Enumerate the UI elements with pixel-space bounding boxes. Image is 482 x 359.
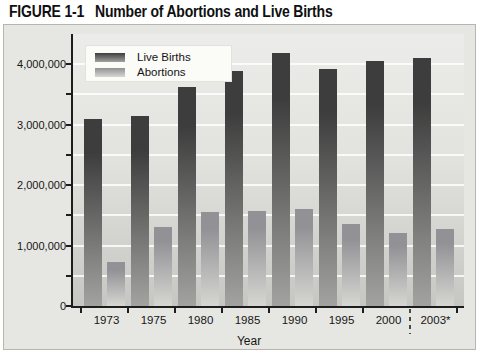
x-axis-tick [315,308,317,313]
x-axis-label: 1973 [84,314,130,326]
figure-page: FIGURE 1-1Number of Abortions and Live B… [0,0,482,359]
bar-live-births-2000 [366,61,384,306]
bar-abortions-1975 [154,227,172,306]
y-axis-tick [66,93,71,95]
y-axis-label: 3,000,000 [8,119,66,131]
figure-caption: Number of Abortions and Live Births [95,2,333,20]
x-axis-tick [268,308,270,313]
x-axis-label: 1980 [178,314,224,326]
bar-abortions-2000 [389,233,407,306]
legend-label-live-births: Live Births [137,51,191,64]
x-axis-label: 1975 [131,314,177,326]
legend: Live Births Abortions [85,45,232,82]
bar-live-births-1985 [225,71,243,306]
y-axis-tick [66,245,71,247]
y-axis-tick [66,275,71,277]
x-axis-label: 1985 [225,314,271,326]
y-axis-tick [66,154,71,156]
bar-abortions-1980 [201,212,219,306]
bar-live-births-1975 [131,116,149,306]
y-axis-tick [66,305,71,307]
x-axis-tick [127,308,129,313]
legend-item-abortions: Abortions [95,66,231,79]
gridline [73,93,464,95]
bar-live-births-1990 [272,53,290,306]
bar-abortions-1990 [295,209,313,306]
bar-abortions-1973 [107,262,125,306]
legend-item-live-births: Live Births [95,51,231,64]
y-axis-tick [66,124,71,126]
figure-number: FIGURE 1-1 [9,2,84,20]
y-axis-label: 0 [8,300,66,312]
chart-frame: Live Births Abortions Year 01,000,0002,0… [3,24,476,350]
y-axis-label: 4,000,000 [8,58,66,70]
legend-label-abortions: Abortions [137,66,186,79]
projection-divider-dashed-line [409,309,411,334]
x-axis-label: 2003* [413,314,459,326]
bar-abortions-1985 [248,211,266,306]
x-axis-tick [362,308,364,313]
x-axis-label: 1990 [272,314,318,326]
bar-live-births-1973 [84,119,102,306]
bar-live-births-2003 [413,58,431,306]
bar-live-births-1995 [319,69,337,306]
y-axis-tick [66,184,71,186]
x-axis-tick [221,308,223,313]
bar-live-births-1980 [178,87,196,306]
x-axis-label: 1995 [319,314,365,326]
bar-abortions-2003 [436,229,454,306]
bar-abortions-1995 [342,224,360,306]
x-axis-tick [456,308,458,313]
y-axis-label: 1,000,000 [8,240,66,252]
abortions-swatch-icon [95,68,125,77]
y-axis-tick [66,63,71,65]
x-axis-tick [80,308,82,313]
x-axis-title: Year [219,334,279,348]
x-axis-label: 2000 [366,314,412,326]
figure-title: FIGURE 1-1Number of Abortions and Live B… [9,2,333,20]
y-axis-tick [66,214,71,216]
x-axis-tick [174,308,176,313]
live-births-swatch-icon [95,53,125,62]
y-axis-label: 2,000,000 [8,179,66,191]
